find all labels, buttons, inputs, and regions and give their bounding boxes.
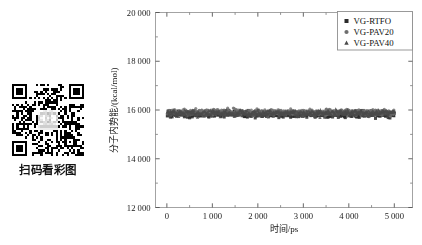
scatter-plot: 01 0002 0003 0004 0005 00012 00014 00016… [0, 0, 422, 245]
y-axis-title: 分子内势能/(kcal/mol) [108, 68, 119, 153]
legend-label: VG-PAV20 [354, 27, 395, 37]
figure-container: 扫码看彩图 01 0002 0003 0004 0005 00012 00014… [0, 0, 422, 245]
x-tick-label: 2 000 [248, 211, 267, 221]
y-tick-label: 14 000 [127, 154, 151, 164]
legend-label: VG-PAV40 [354, 38, 395, 48]
y-tick-label: 20 000 [127, 8, 151, 18]
legend-label: VG-RTFO [354, 16, 392, 26]
x-tick-label: 5 000 [385, 211, 404, 221]
x-tick-label: 3 000 [294, 211, 313, 221]
x-tick-label: 4 000 [339, 211, 358, 221]
y-tick-label: 18 000 [127, 56, 151, 66]
legend: VG-RTFOVG-PAV20VG-PAV40 [338, 12, 413, 51]
y-tick-label: 16 000 [127, 105, 151, 115]
plot-canvas: 01 0002 0003 0004 0005 00012 00014 00016… [0, 0, 422, 245]
x-tick-label: 1 000 [203, 211, 222, 221]
x-tick-label: 0 [165, 211, 169, 221]
x-axis-title: 时间/ps [270, 223, 299, 234]
y-tick-label: 12 000 [127, 203, 151, 213]
